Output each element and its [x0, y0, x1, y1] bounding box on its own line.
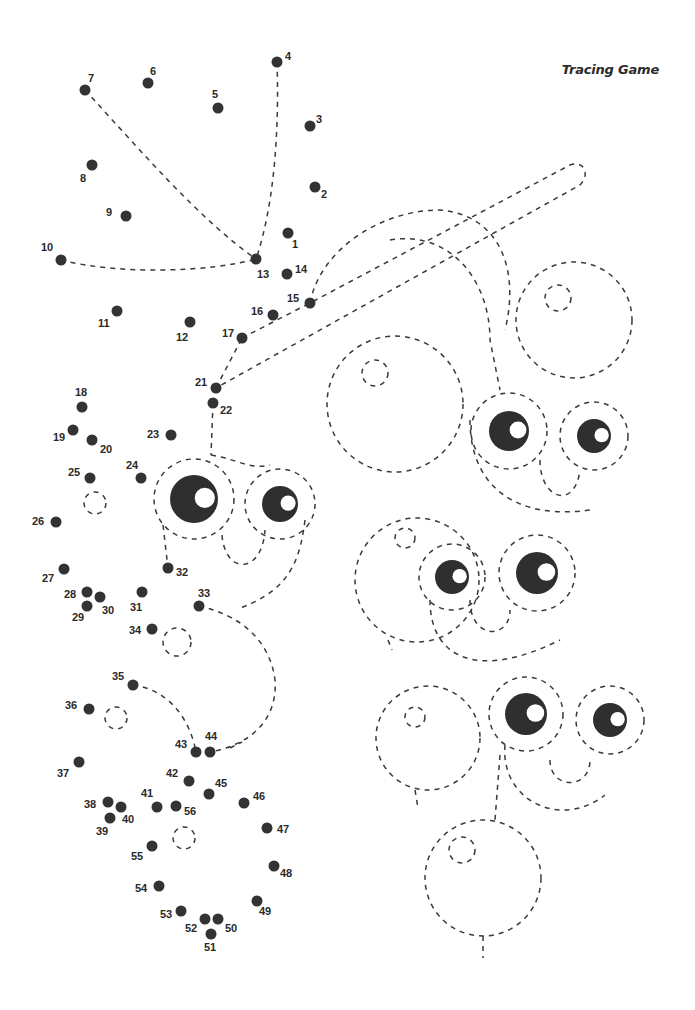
- dot-8[interactable]: 8: [80, 160, 98, 185]
- dot-marker[interactable]: [283, 228, 294, 239]
- dot-35[interactable]: 35: [112, 670, 139, 691]
- dot-50[interactable]: 50: [213, 914, 238, 935]
- dot-marker[interactable]: [147, 841, 158, 852]
- dot-marker[interactable]: [84, 704, 95, 715]
- dot-10[interactable]: 10: [41, 241, 67, 266]
- dot-marker[interactable]: [82, 601, 93, 612]
- dot-marker[interactable]: [269, 861, 280, 872]
- dot-marker[interactable]: [87, 435, 98, 446]
- dot-marker[interactable]: [282, 269, 293, 280]
- dot-marker[interactable]: [305, 121, 316, 132]
- dot-marker[interactable]: [121, 211, 132, 222]
- dot-24[interactable]: 24: [126, 459, 147, 484]
- dot-marker[interactable]: [200, 914, 211, 925]
- dot-12[interactable]: 12: [176, 317, 196, 344]
- dot-31[interactable]: 31: [130, 587, 148, 614]
- dot-marker[interactable]: [305, 298, 316, 309]
- dot-19[interactable]: 19: [53, 425, 79, 444]
- dot-marker[interactable]: [136, 473, 147, 484]
- dot-marker[interactable]: [213, 103, 224, 114]
- dot-marker[interactable]: [176, 906, 187, 917]
- dot-marker[interactable]: [137, 587, 148, 598]
- dot-49[interactable]: 49: [252, 896, 272, 918]
- dot-marker[interactable]: [194, 601, 205, 612]
- dot-14[interactable]: 14: [282, 263, 309, 280]
- dot-16[interactable]: 16: [251, 305, 279, 321]
- dot-15[interactable]: 15: [287, 292, 316, 309]
- dot-marker[interactable]: [204, 789, 215, 800]
- dot-25[interactable]: 25: [68, 466, 96, 484]
- tracing-canvas[interactable]: 1234567891011121314151617212218192023242…: [0, 0, 695, 1010]
- dot-26[interactable]: 26: [32, 515, 62, 528]
- dot-marker[interactable]: [112, 306, 123, 317]
- dot-46[interactable]: 46: [239, 790, 266, 809]
- dot-marker[interactable]: [147, 624, 158, 635]
- dot-marker[interactable]: [206, 929, 217, 940]
- dot-40[interactable]: 40: [116, 802, 135, 826]
- dot-56[interactable]: 56: [171, 801, 197, 818]
- dot-44[interactable]: 44: [205, 730, 219, 758]
- dot-marker[interactable]: [268, 310, 279, 321]
- dot-18[interactable]: 18: [75, 386, 88, 413]
- dot-marker[interactable]: [191, 747, 202, 758]
- dot-39[interactable]: 39: [96, 813, 116, 838]
- dot-marker[interactable]: [56, 255, 67, 266]
- dot-marker[interactable]: [154, 881, 165, 892]
- dot-47[interactable]: 47: [262, 823, 290, 836]
- dot-48[interactable]: 48: [269, 861, 293, 880]
- dot-marker[interactable]: [87, 160, 98, 171]
- dot-marker[interactable]: [184, 776, 195, 787]
- dot-marker[interactable]: [213, 914, 224, 925]
- dot-41[interactable]: 41: [141, 787, 163, 813]
- dot-6[interactable]: 6: [143, 65, 157, 89]
- dot-marker[interactable]: [95, 592, 106, 603]
- dot-17[interactable]: 17: [222, 327, 248, 344]
- dot-36[interactable]: 36: [65, 699, 95, 715]
- dot-51[interactable]: 51: [204, 929, 217, 954]
- dot-marker[interactable]: [82, 587, 93, 598]
- dot-11[interactable]: 11: [98, 306, 123, 330]
- dot-42[interactable]: 42: [166, 767, 195, 787]
- dot-53[interactable]: 53: [160, 906, 187, 921]
- dot-marker[interactable]: [68, 425, 79, 436]
- dot-marker[interactable]: [166, 430, 177, 441]
- dot-marker[interactable]: [163, 563, 174, 574]
- dot-marker[interactable]: [128, 680, 139, 691]
- dot-3[interactable]: 3: [305, 113, 323, 132]
- dot-marker[interactable]: [51, 517, 62, 528]
- dot-7[interactable]: 7: [80, 72, 95, 96]
- dot-28[interactable]: 28: [64, 587, 93, 601]
- dot-22[interactable]: 22: [208, 398, 233, 417]
- dot-5[interactable]: 5: [212, 88, 224, 114]
- dot-21[interactable]: 21: [195, 376, 222, 394]
- dot-33[interactable]: 33: [194, 587, 211, 612]
- dot-marker[interactable]: [116, 802, 127, 813]
- dot-55[interactable]: 55: [131, 841, 158, 863]
- dot-45[interactable]: 45: [204, 777, 228, 800]
- dot-29[interactable]: 29: [72, 601, 93, 624]
- dot-marker[interactable]: [143, 78, 154, 89]
- dot-marker[interactable]: [211, 383, 222, 394]
- dot-30[interactable]: 30: [95, 592, 115, 617]
- dot-marker[interactable]: [59, 564, 70, 575]
- dot-marker[interactable]: [152, 802, 163, 813]
- dot-marker[interactable]: [272, 57, 283, 68]
- dot-marker[interactable]: [251, 254, 262, 265]
- dot-20[interactable]: 20: [87, 435, 113, 456]
- dot-marker[interactable]: [80, 85, 91, 96]
- dot-2[interactable]: 2: [310, 182, 328, 201]
- dot-marker[interactable]: [105, 813, 116, 824]
- dot-37[interactable]: 37: [57, 757, 85, 780]
- dot-marker[interactable]: [237, 333, 248, 344]
- dot-32[interactable]: 32: [163, 563, 189, 579]
- dot-marker[interactable]: [239, 798, 250, 809]
- dot-34[interactable]: 34: [129, 624, 158, 637]
- dot-1[interactable]: 1: [283, 228, 299, 251]
- dot-23[interactable]: 23: [147, 428, 177, 441]
- dot-marker[interactable]: [310, 182, 321, 193]
- dot-marker[interactable]: [171, 801, 182, 812]
- dot-9[interactable]: 9: [106, 206, 132, 222]
- dot-27[interactable]: 27: [42, 564, 70, 585]
- dot-marker[interactable]: [77, 402, 88, 413]
- dot-marker[interactable]: [85, 473, 96, 484]
